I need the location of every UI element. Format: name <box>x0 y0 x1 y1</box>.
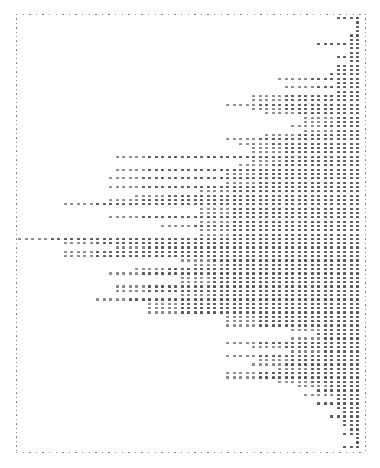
bar-dot <box>187 169 190 171</box>
bar-dot <box>311 368 314 370</box>
bar-dot <box>207 277 210 279</box>
bar-dot <box>317 117 320 119</box>
bar-dot <box>304 355 307 357</box>
bar-dot <box>285 95 288 97</box>
bar-dot <box>330 134 333 136</box>
frame-dot <box>365 304 366 305</box>
bar-dot <box>246 294 249 296</box>
bar-dot <box>291 264 294 266</box>
bar-dot <box>324 186 327 188</box>
bar-dot <box>343 285 346 287</box>
bar-dot <box>304 342 307 344</box>
bar-dot <box>226 285 229 287</box>
bar-dot <box>213 307 216 309</box>
bar-dot <box>343 121 346 123</box>
bar-dot <box>337 169 340 171</box>
bar-dot <box>226 238 229 240</box>
bar-dot <box>226 186 229 188</box>
bar-dot <box>356 238 359 240</box>
bar-dot <box>187 277 190 279</box>
bar-dot <box>265 134 268 136</box>
bar-dot <box>343 95 346 97</box>
bar-dot <box>343 376 346 378</box>
bar-dot <box>317 346 320 348</box>
bar-dot <box>356 316 359 318</box>
bar-dot <box>246 376 249 378</box>
bar-dot <box>135 251 138 253</box>
bar-dot <box>337 277 340 279</box>
bar-dot <box>233 169 236 171</box>
bar-dot <box>330 346 333 348</box>
bar-dot <box>265 311 268 313</box>
bar-dot <box>233 290 236 292</box>
bar-dot <box>70 251 73 253</box>
bar-dot <box>337 320 340 322</box>
bar-dot <box>337 17 340 19</box>
bar-dot <box>148 169 151 171</box>
bar-dot <box>259 246 262 248</box>
bar-dot <box>330 212 333 214</box>
bar-dot <box>317 43 320 45</box>
bar-dot <box>304 359 307 361</box>
bar-dot <box>337 311 340 313</box>
frame-dot <box>365 388 366 389</box>
frame-dot <box>365 260 366 261</box>
bar-dot <box>343 169 346 171</box>
frame-dot <box>365 410 366 411</box>
bar-dot <box>285 324 288 326</box>
bar-dot <box>161 169 164 171</box>
frame-dot <box>365 269 366 270</box>
bar-dot <box>213 298 216 300</box>
bar-dot <box>343 372 346 374</box>
bar-dot <box>291 337 294 339</box>
bar-dot <box>324 307 327 309</box>
bar-dot <box>337 208 340 210</box>
bar-dot <box>239 238 242 240</box>
bar-dot <box>298 199 301 201</box>
bar-dot <box>246 272 249 274</box>
bar-dot <box>343 337 346 339</box>
bar-dot <box>337 294 340 296</box>
frame-dot <box>168 452 169 453</box>
bar-dot <box>330 290 333 292</box>
bar-dot <box>350 337 353 339</box>
bar-dot <box>317 221 320 223</box>
bar-dot <box>356 329 359 331</box>
bar-dot <box>213 259 216 261</box>
bar-dot <box>337 199 340 201</box>
bar-dot <box>226 221 229 223</box>
bar-dot <box>317 402 320 404</box>
bar-dot <box>233 195 236 197</box>
bar-dot <box>337 307 340 309</box>
bar-dot <box>356 372 359 374</box>
bar-dot <box>304 238 307 240</box>
bar-dot <box>187 195 190 197</box>
bar-dot <box>337 95 340 97</box>
frame-dot <box>365 247 366 248</box>
bar-dot <box>285 208 288 210</box>
bar-dot <box>226 311 229 313</box>
bar-dot <box>194 246 197 248</box>
bar-dot <box>356 52 359 54</box>
frame-dot <box>365 84 366 85</box>
bar-dot <box>226 372 229 374</box>
bar-dot <box>278 143 281 145</box>
bar-dot <box>343 186 346 188</box>
bar-dot <box>343 290 346 292</box>
bar-dot <box>350 259 353 261</box>
bar-dot <box>330 324 333 326</box>
bar-dot <box>233 259 236 261</box>
bar-dot <box>298 272 301 274</box>
bar-dot <box>252 169 255 171</box>
bar-dot <box>330 298 333 300</box>
bar-dot <box>350 95 353 97</box>
bar-dot <box>259 173 262 175</box>
bar-dot <box>233 311 236 313</box>
bar-dot <box>311 342 314 344</box>
bar-dot <box>252 294 255 296</box>
bar-dot <box>226 234 229 236</box>
bar-dot <box>174 195 177 197</box>
frame-dot <box>365 419 366 420</box>
bar-dot <box>317 277 320 279</box>
bar-dot <box>252 238 255 240</box>
